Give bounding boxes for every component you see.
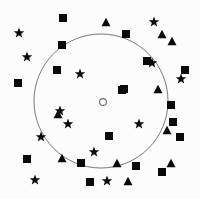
square-marker [176, 133, 184, 141]
square-marker [132, 162, 140, 170]
square-marker [122, 30, 130, 38]
square-marker [58, 41, 66, 49]
square-marker [14, 79, 22, 87]
square-marker [118, 86, 126, 94]
square-marker [181, 66, 189, 74]
square-marker [23, 155, 31, 163]
square-marker [169, 118, 177, 126]
square-marker [77, 159, 85, 167]
plot-canvas [0, 0, 200, 199]
square-marker [167, 101, 175, 109]
square-marker [158, 168, 166, 176]
square-marker [53, 66, 61, 74]
square-marker [86, 178, 94, 186]
square-marker [59, 14, 67, 22]
scatter-figure [0, 0, 200, 199]
square-marker [105, 132, 113, 140]
